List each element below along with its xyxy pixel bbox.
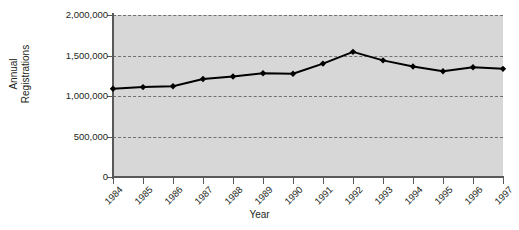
x-tick-mark	[383, 178, 384, 184]
y-axis-title-line-1: Annual	[8, 58, 19, 89]
chart-figure: 2,000,000 1,500,000 1,000,000 500,000 0 …	[0, 0, 519, 230]
x-tick-mark	[323, 178, 324, 184]
x-tick-mark	[263, 178, 264, 184]
gridline-1000000	[113, 96, 503, 97]
gridline-500000	[113, 137, 503, 138]
y-tick-label-0: 0	[8, 172, 108, 182]
y-tick-label-500000: 500,000	[8, 132, 108, 142]
x-tick-mark	[113, 178, 114, 184]
x-tick-mark	[143, 178, 144, 184]
gridline-1500000	[113, 56, 503, 57]
x-tick-mark	[233, 178, 234, 184]
x-tick-mark	[443, 178, 444, 184]
y-axis-title: Annual Registrations	[8, 24, 32, 124]
y-axis-title-line-2: Registrations	[20, 45, 31, 103]
x-tick-mark	[473, 178, 474, 184]
gridline-2000000	[113, 15, 503, 16]
x-tick-mark	[203, 178, 204, 184]
x-tick-mark	[503, 178, 504, 184]
x-tick-mark	[173, 178, 174, 184]
x-tick-mark	[413, 178, 414, 184]
x-tick-mark	[353, 178, 354, 184]
x-axis-line	[112, 176, 504, 178]
y-tick-label-2000000: 2,000,000	[8, 10, 108, 20]
x-tick-mark	[293, 178, 294, 184]
